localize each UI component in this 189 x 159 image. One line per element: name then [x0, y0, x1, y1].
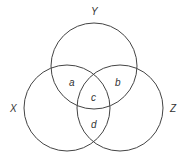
region-a: a — [69, 77, 75, 88]
region-b: b — [115, 77, 121, 88]
label-y: Y — [91, 6, 99, 17]
circle-x — [24, 65, 110, 151]
label-z: Z — [169, 103, 177, 114]
venn-diagram: Y X Z a b c d — [0, 0, 189, 159]
region-d: d — [91, 119, 97, 130]
label-x: X — [9, 103, 17, 114]
region-c: c — [91, 92, 96, 103]
